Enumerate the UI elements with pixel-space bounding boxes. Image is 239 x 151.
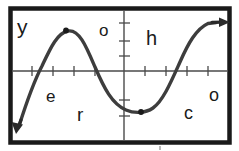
local-maximum-point: [63, 28, 69, 34]
label-o-top: o: [99, 22, 108, 39]
graph-figure: y o h e r c o: [0, 0, 239, 151]
label-h: h: [146, 28, 157, 48]
label-r: r: [77, 105, 83, 124]
label-e: e: [46, 88, 55, 105]
figure-border-inner: [13, 11, 227, 140]
label-o-bottom: o: [209, 86, 219, 104]
label-y: y: [17, 16, 28, 37]
label-c: c: [184, 104, 193, 122]
local-minimum-point: [138, 109, 144, 115]
graph-canvas: [0, 0, 239, 151]
